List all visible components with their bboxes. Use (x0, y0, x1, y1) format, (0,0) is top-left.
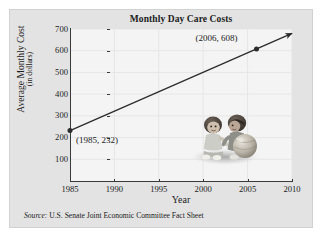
two-children-with-ball-photo (189, 113, 261, 165)
source-note: Source: U.S. Senate Joint Economic Commi… (24, 211, 204, 220)
data-series-layer (0, 0, 322, 244)
data-point-label-2006: (2006, 608) (195, 33, 237, 43)
source-keyword: Source: (24, 211, 47, 220)
data-point-marker-2006 (254, 47, 259, 52)
data-point-label-1985: (1985, 232) (76, 135, 118, 145)
data-point-marker-1985 (68, 128, 73, 133)
source-text: U.S. Senate Joint Economic Committee Fac… (47, 211, 203, 220)
figure-container: Monthly Day Care Costs 10020030040050060… (0, 0, 322, 244)
